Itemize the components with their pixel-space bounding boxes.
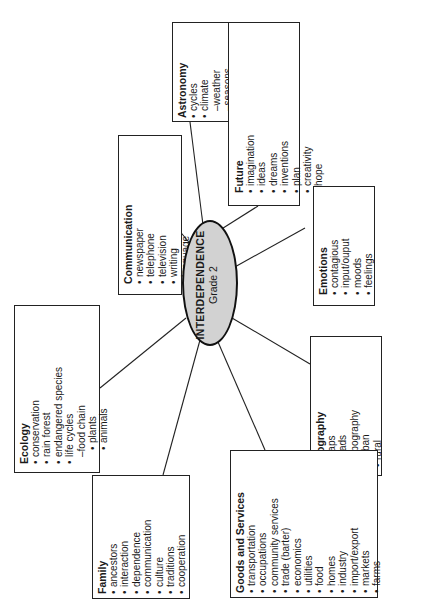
topic-list: contagiousinput/ouputmoodsfeelings bbox=[329, 192, 375, 295]
list-item: topography bbox=[349, 342, 360, 467]
list-item: newspaper bbox=[134, 141, 145, 284]
list-item: input/ouput bbox=[340, 192, 351, 295]
list-item: endangered species bbox=[53, 311, 64, 464]
list-item: markets bbox=[360, 456, 371, 593]
list-item: maps bbox=[326, 342, 337, 467]
list-item: utilities bbox=[303, 456, 314, 593]
topic-box-ecology: Ecology conservationrain forestendangere… bbox=[14, 305, 100, 473]
list-item: urban bbox=[360, 342, 371, 467]
topic-title: Geography bbox=[314, 342, 326, 467]
topic-title: Communication bbox=[122, 141, 134, 284]
list-item: import/export bbox=[349, 456, 360, 593]
list-item: economics bbox=[292, 456, 303, 593]
list-item: occupations bbox=[257, 456, 268, 593]
list-item: –food chain bbox=[76, 311, 87, 464]
topic-box-goods-and-services: Goods and Services transportationoccupat… bbox=[230, 450, 378, 598]
list-item: –weather bbox=[211, 28, 222, 118]
list-item: community services bbox=[269, 456, 280, 593]
list-item: trade (barter) bbox=[280, 456, 291, 593]
list-item: dreams bbox=[268, 28, 279, 193]
connector-family bbox=[163, 340, 200, 475]
topic-list: transportationoccupationscommunity servi… bbox=[246, 456, 383, 593]
list-item: conservation bbox=[30, 311, 41, 464]
list-item: cooperation bbox=[176, 481, 187, 594]
list-item: farms bbox=[371, 456, 382, 593]
list-item: communication bbox=[142, 481, 153, 594]
central-topic-ellipse: INTERDEPENDENCE Grade 2 bbox=[182, 220, 238, 346]
topic-box-communication: Communication newspapertelephonetelevisi… bbox=[118, 135, 182, 295]
connector-goods bbox=[218, 342, 265, 450]
topic-title: Astronomy bbox=[176, 28, 188, 118]
topic-title: Emotions bbox=[317, 192, 329, 295]
list-item: feelings bbox=[363, 192, 374, 295]
list-item: cycles bbox=[188, 28, 199, 118]
list-item: transportation bbox=[246, 456, 257, 593]
list-item: food bbox=[314, 456, 325, 593]
topic-title: Goods and Services bbox=[234, 456, 246, 593]
concept-map: Astronomy cyclesclimate–weather–seasons … bbox=[0, 0, 425, 603]
list-item: ancestors bbox=[108, 481, 119, 594]
list-item: dependence bbox=[131, 481, 142, 594]
list-item: plan bbox=[291, 28, 302, 193]
list-item: contagious bbox=[329, 192, 340, 295]
central-topic-title: INTERDEPENDENCE bbox=[194, 224, 207, 346]
list-item: life cycles bbox=[64, 311, 75, 464]
list-item: plants bbox=[87, 311, 98, 464]
list-item: telephone bbox=[145, 141, 156, 284]
list-item: industry bbox=[337, 456, 348, 593]
list-item: inventions bbox=[279, 28, 290, 193]
list-item: writing bbox=[168, 141, 179, 284]
topic-list: conservationrain forestendangered specie… bbox=[30, 311, 110, 464]
topic-box-emotions: Emotions contagiousinput/ouputmoodsfeeli… bbox=[313, 186, 375, 306]
list-item: traditions bbox=[165, 481, 176, 594]
connector-geography bbox=[232, 318, 310, 364]
list-item: television bbox=[157, 141, 168, 284]
list-item: rural bbox=[372, 342, 383, 467]
list-item: culture bbox=[154, 481, 165, 594]
central-topic-subtitle: Grade 2 bbox=[207, 224, 220, 346]
topic-title: Family bbox=[96, 481, 108, 594]
list-item: creativity bbox=[302, 28, 313, 193]
topic-list: mapsroadstopographyurbanrural bbox=[326, 342, 383, 467]
list-item: interaction bbox=[119, 481, 130, 594]
list-item: hope bbox=[313, 28, 324, 193]
list-item: ideas bbox=[256, 28, 267, 193]
topic-list: imaginationideasdreamsinventionsplancrea… bbox=[245, 28, 325, 193]
topic-list: ancestorsinteractiondependencecommunicat… bbox=[108, 481, 188, 594]
topic-title: Future bbox=[233, 28, 245, 193]
list-item: homes bbox=[326, 456, 337, 593]
list-item: climate bbox=[199, 28, 210, 118]
list-item: rain forest bbox=[41, 311, 52, 464]
topic-title: Ecology bbox=[18, 311, 30, 464]
list-item: imagination bbox=[245, 28, 256, 193]
topic-box-astronomy: Astronomy cyclesclimate–weather–seasons bbox=[172, 22, 230, 122]
list-item: roads bbox=[337, 342, 348, 467]
topic-list: cyclesclimate–weather–seasons bbox=[188, 28, 234, 118]
connector-ecology bbox=[100, 318, 186, 388]
list-item: animals bbox=[98, 311, 109, 464]
topic-box-family: Family ancestorsinteractiondependencecom… bbox=[92, 475, 190, 599]
topic-box-future: Future imaginationideasdreamsinventionsp… bbox=[228, 22, 300, 206]
connector-emotions bbox=[233, 228, 305, 268]
list-item: moods bbox=[352, 192, 363, 295]
